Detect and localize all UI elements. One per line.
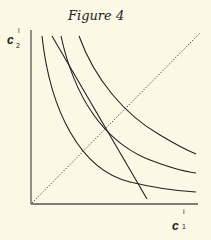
- budget-line: [52, 36, 147, 199]
- indifference-curve-2: [61, 36, 196, 173]
- figure-plot: [0, 0, 211, 240]
- indifference-curve-3: [79, 36, 196, 154]
